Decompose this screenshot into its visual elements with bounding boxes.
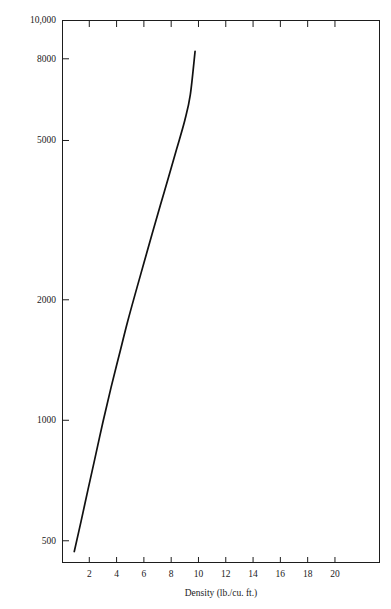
x-axis-title: Density (lb./cu. ft.) — [62, 588, 380, 598]
x-tick-label: 16 — [265, 569, 295, 580]
y-axis-title: Modulus of elasticity in compression — [10, 170, 26, 390]
x-tick-label: 14 — [238, 569, 268, 580]
x-tick-label: 10 — [183, 569, 213, 580]
x-tick-label: 8 — [156, 569, 186, 580]
x-axis-tick-labels: 2468101214161820 — [0, 0, 391, 609]
x-tick-label: 2 — [74, 569, 104, 580]
x-tick-label: 12 — [211, 569, 241, 580]
x-tick-label: 20 — [320, 569, 350, 580]
x-tick-label: 18 — [293, 569, 323, 580]
x-tick-label: 6 — [129, 569, 159, 580]
figure-container: 500100020005000800010,000 24681012141618… — [0, 0, 391, 609]
x-tick-label: 4 — [102, 569, 132, 580]
